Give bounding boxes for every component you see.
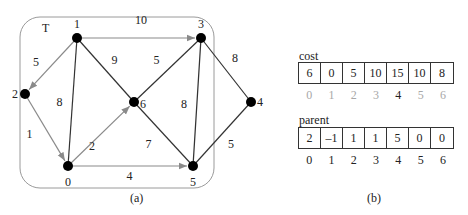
node-4 (246, 97, 256, 107)
cost-cell: 0 (321, 63, 343, 83)
edge-0-6 (68, 106, 130, 166)
parent-cell: 5 (387, 128, 409, 148)
edge-weight-label: 5 (154, 54, 160, 66)
cost-cell: 10 (409, 63, 431, 83)
edge-weight-label: 7 (146, 138, 152, 150)
node-label: 6 (140, 98, 146, 110)
node-5 (188, 161, 198, 171)
edge-weight-label: 4 (127, 170, 133, 182)
edge-3-6 (134, 38, 201, 102)
edge-weight-label: 8 (232, 52, 238, 64)
cost-index: 4 (387, 88, 409, 103)
cost-cell: 10 (365, 63, 387, 83)
node-label: 2 (12, 88, 18, 100)
node-3 (196, 33, 206, 43)
parent-index: 5 (409, 153, 431, 168)
parent-cell: –1 (321, 128, 343, 148)
cost-index: 5 (409, 88, 431, 103)
cost-cell: 5 (343, 63, 365, 83)
edge-weight-label: 5 (33, 56, 39, 68)
node-0 (63, 161, 73, 171)
parent-cell: 2 (299, 128, 321, 148)
parent-index: 4 (387, 153, 409, 168)
parent-cell: 0 (409, 128, 431, 148)
cost-index: 0 (298, 88, 320, 103)
cost-cell: 8 (431, 63, 453, 83)
edge-weight-label: 8 (57, 96, 63, 108)
node-label: 4 (257, 96, 263, 108)
parent-cell: 1 (365, 128, 387, 148)
edge-weight-label: 2 (89, 140, 95, 152)
node-label: 5 (190, 176, 196, 188)
node-2 (20, 89, 30, 99)
cost-label: cost (299, 50, 318, 62)
parent-indices: 0123456 (298, 153, 454, 168)
cost-index: 2 (343, 88, 365, 103)
edge-3-4 (201, 38, 251, 102)
cost-array: 6051015108 (298, 62, 454, 84)
parent-index: 1 (320, 153, 342, 168)
cost-cell: 6 (299, 63, 321, 83)
node-6 (129, 97, 139, 107)
parent-label: parent (299, 114, 329, 126)
parent-index: 6 (432, 153, 454, 168)
node-label: 3 (198, 18, 204, 30)
edge-weight-label: 9 (112, 54, 118, 66)
edge-1-6 (77, 38, 134, 102)
node-label: 1 (74, 18, 80, 30)
node-label: 0 (65, 176, 71, 188)
parent-index: 2 (343, 153, 365, 168)
edge-weight-label: 8 (181, 98, 187, 110)
graph-caption: (a) (130, 191, 143, 206)
cost-cell: 15 (387, 63, 409, 83)
parent-cell: 0 (431, 128, 453, 148)
edge-5-4 (193, 102, 251, 166)
parent-index: 0 (298, 153, 320, 168)
cost-index: 3 (365, 88, 387, 103)
edge-weight-label: 5 (228, 138, 234, 150)
cost-index: 6 (432, 88, 454, 103)
parent-index: 3 (365, 153, 387, 168)
edge-1-0 (68, 38, 77, 166)
cost-index: 1 (320, 88, 342, 103)
edge-weight-label: 1 (27, 128, 33, 140)
parent-array: 2–111500 (298, 127, 454, 149)
arrays-caption: (b) (367, 191, 381, 206)
parent-cell: 1 (343, 128, 365, 148)
edge-weight-label: 10 (135, 14, 147, 26)
edge-3-5 (193, 38, 201, 166)
node-1 (72, 33, 82, 43)
tree-label: T (42, 22, 49, 34)
edge-6-5 (134, 102, 193, 166)
cost-indices: 0123456 (298, 88, 454, 103)
